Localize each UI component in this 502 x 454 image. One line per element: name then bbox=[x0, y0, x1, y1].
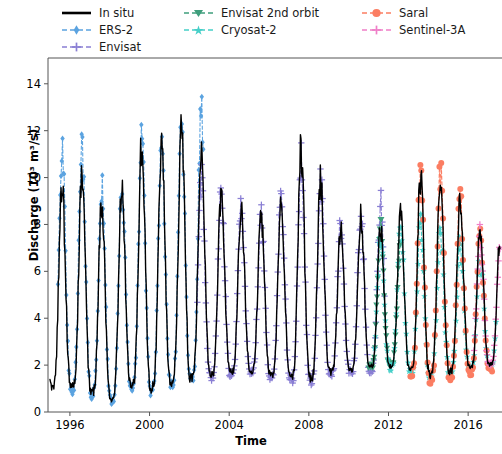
series-layer bbox=[50, 94, 502, 407]
svg-text:2012: 2012 bbox=[374, 418, 403, 432]
svg-text:1996: 1996 bbox=[55, 418, 84, 432]
ticks-layer: 02468101214199620002004200820122016 bbox=[26, 77, 482, 432]
svg-text:2000: 2000 bbox=[135, 418, 164, 432]
svg-text:2: 2 bbox=[34, 358, 41, 372]
svg-text:2004: 2004 bbox=[215, 418, 244, 432]
chart-canvas: 02468101214199620002004200820122016 bbox=[0, 0, 502, 454]
svg-text:2016: 2016 bbox=[454, 418, 483, 432]
svg-text:2008: 2008 bbox=[294, 418, 323, 432]
x-axis-label: Time bbox=[0, 434, 502, 448]
discharge-timeseries-figure: 02468101214199620002004200820122016 In s… bbox=[0, 0, 502, 454]
y-axis-label: Discharge (10³ m³/s) bbox=[27, 65, 41, 325]
svg-text:0: 0 bbox=[34, 405, 41, 419]
